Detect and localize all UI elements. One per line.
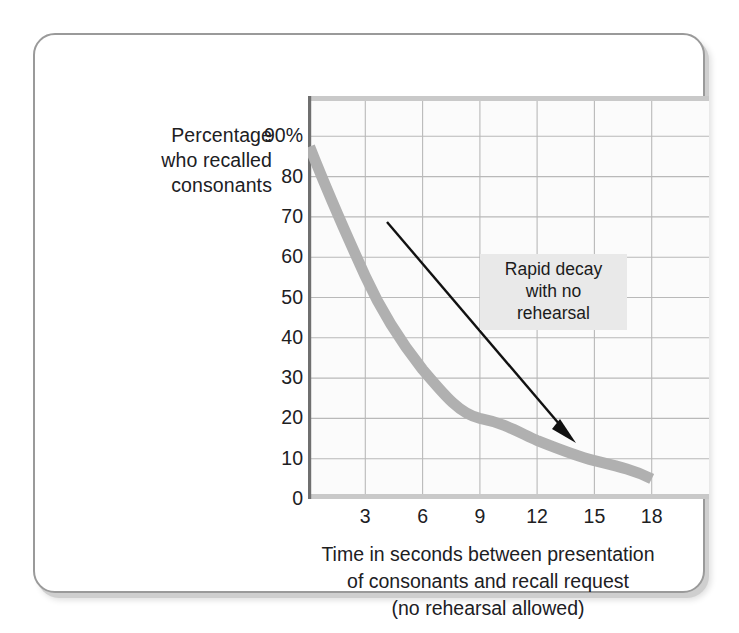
y-tick-label-20: 20 <box>231 406 303 429</box>
y-tick-label-10: 10 <box>231 446 303 469</box>
plot-top-border <box>308 96 709 101</box>
x-tick-label-6: 6 <box>403 505 443 528</box>
x-axis-caption: Time in seconds between presentation of … <box>268 541 708 622</box>
x-tick-label-12: 12 <box>517 505 557 528</box>
x-tick-label-15: 15 <box>574 505 614 528</box>
annotation-line-3: rehearsal <box>487 302 620 324</box>
y-tick-label-60: 60 <box>231 245 303 268</box>
y-tick-label-40: 40 <box>231 325 303 348</box>
y-tick-label-80: 80 <box>231 164 303 187</box>
x-axis-caption-line-3: (no rehearsal allowed) <box>268 595 708 622</box>
figure-screenshot: Percentage who recalled consonants 0 10 … <box>0 0 739 633</box>
x-axis-tick-labels: 3 6 9 12 15 18 <box>308 505 709 533</box>
plot-bottom-border <box>308 494 709 499</box>
y-axis-tick-labels: 0 10 20 30 40 50 60 70 80 90% <box>231 95 303 501</box>
x-tick-label-3: 3 <box>345 505 385 528</box>
annotation-line-1: Rapid decay <box>487 258 620 280</box>
y-tick-label-90: 90% <box>231 124 303 147</box>
y-tick-label-30: 30 <box>231 366 303 389</box>
y-tick-label-50: 50 <box>231 285 303 308</box>
x-tick-label-18: 18 <box>632 505 672 528</box>
figure-card: Percentage who recalled consonants 0 10 … <box>33 33 705 593</box>
y-tick-label-0: 0 <box>231 487 303 510</box>
x-axis-caption-line-2: of consonants and recall request <box>268 568 708 595</box>
x-tick-label-9: 9 <box>460 505 500 528</box>
y-tick-label-70: 70 <box>231 204 303 227</box>
annotation-line-2: with no <box>487 280 620 302</box>
x-axis-caption-line-1: Time in seconds between presentation <box>268 541 708 568</box>
annotation-callout: Rapid decay with no rehearsal <box>480 254 627 330</box>
